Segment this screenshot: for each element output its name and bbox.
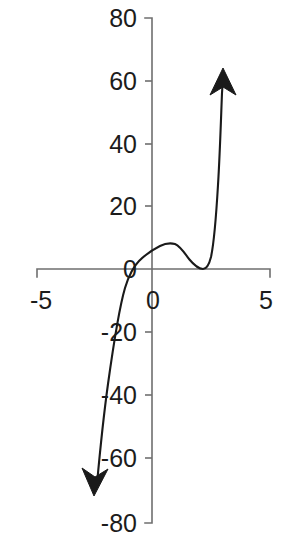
x-tick-label-neg5: -5 xyxy=(30,286,52,314)
chart-container: 80 60 40 20 0 -20 -40 -60 -80 -5 0 5 xyxy=(0,0,286,556)
y-axis-line xyxy=(145,18,152,523)
line-chart: 80 60 40 20 0 -20 -40 -60 -80 -5 0 5 xyxy=(0,0,286,556)
x-tick-label-0: 0 xyxy=(146,286,160,314)
y-tick-label-60: 60 xyxy=(109,67,137,95)
down-arrow-icon xyxy=(82,468,108,496)
x-tick-label-5: 5 xyxy=(259,286,273,314)
y-tick-label-80: 80 xyxy=(109,4,137,32)
y-tick-label-0: 0 xyxy=(123,255,137,283)
y-tick-label-neg20: -20 xyxy=(101,318,137,346)
x-axis-line xyxy=(37,269,270,277)
y-tick-label-neg60: -60 xyxy=(101,444,137,472)
y-tick-label-40: 40 xyxy=(109,130,137,158)
y-tick-label-20: 20 xyxy=(109,192,137,220)
y-tick-label-neg80: -80 xyxy=(101,509,137,537)
